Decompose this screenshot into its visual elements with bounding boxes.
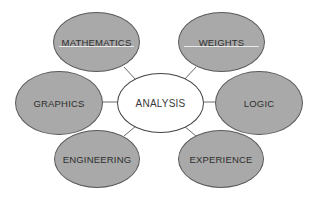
node-analysis-center-label: ANALYSIS	[136, 98, 186, 109]
node-mathematics: MATHEMATICS	[53, 12, 140, 72]
node-logic-label: LOGIC	[244, 98, 275, 109]
node-experience: EXPERIENCE	[178, 130, 264, 188]
node-logic: LOGIC	[215, 71, 303, 135]
concept-diagram: MATHEMATICSWEIGHTSGRAPHICSLOGICENGINEERI…	[0, 0, 313, 202]
node-graphics: GRAPHICS	[15, 71, 103, 135]
node-engineering-label: ENGINEERING	[63, 154, 132, 165]
node-experience-label: EXPERIENCE	[189, 154, 252, 165]
highlight-line	[184, 46, 259, 47]
connector-engineering	[124, 126, 136, 136]
node-analysis-center: ANALYSIS	[117, 73, 204, 133]
node-weights: WEIGHTS	[178, 12, 265, 72]
node-graphics-label: GRAPHICS	[33, 98, 84, 109]
highlight-line	[59, 46, 134, 47]
connector-experience	[184, 126, 196, 136]
node-engineering: ENGINEERING	[54, 130, 140, 188]
